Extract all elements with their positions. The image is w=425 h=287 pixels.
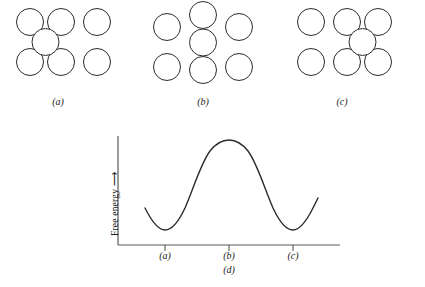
- free-energy-plot-svg: [0, 0, 425, 287]
- x-tick-label-b: (b): [209, 250, 249, 261]
- y-axis-arrow-icon: ⟶: [110, 172, 120, 186]
- y-axis-label-text: Free energy: [110, 189, 120, 236]
- y-axis-label: Free energy⟶: [109, 172, 120, 236]
- diffusion-free-energy-figure: (a) (b) (c): [0, 0, 425, 287]
- x-tick-label-a: (a): [145, 250, 185, 261]
- x-tick-label-c: (c): [273, 250, 313, 261]
- free-energy-curve: [145, 140, 318, 230]
- panel-caption-d: (d): [209, 264, 249, 275]
